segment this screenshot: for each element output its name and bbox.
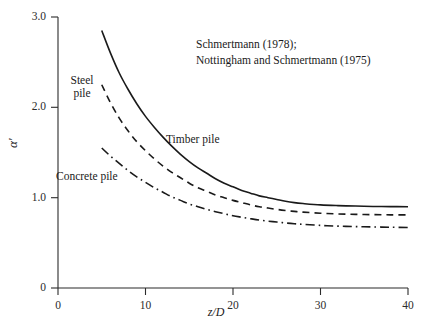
annotation-line-1: Schmertmann (1978); [196, 36, 371, 52]
series-label-timber-pile: Timber pile [166, 133, 220, 146]
chart-figure: 3.0 2.0 1.0 0 0 10 20 30 40 α' z/D Steel… [0, 0, 432, 335]
x-axis-title: z/D [0, 306, 432, 318]
y-tick-label-0: 0 [18, 282, 46, 294]
series-label-concrete-pile: Concrete pile [56, 170, 118, 183]
y-axis-title: α' [6, 138, 19, 148]
source-annotation: Schmertmann (1978); Nottingham and Schme… [196, 36, 371, 69]
y-tick-label-3: 3.0 [18, 11, 46, 23]
series-line-concrete-pile [102, 148, 408, 228]
y-tick-marks [51, 17, 58, 288]
x-tick-marks [58, 288, 408, 295]
y-tick-label-1: 1.0 [18, 192, 46, 204]
series-label-steel-pile: Steel pile [58, 74, 106, 100]
y-tick-label-2: 2.0 [18, 101, 46, 113]
annotation-line-2: Nottingham and Schmertmann (1975) [196, 52, 371, 68]
